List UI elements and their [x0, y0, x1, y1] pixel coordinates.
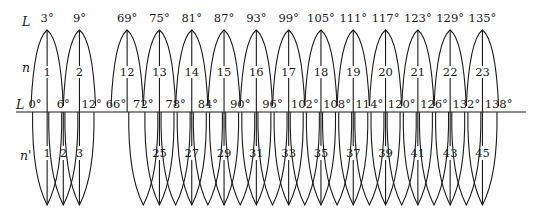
- three-degree-zone-number: 39: [378, 146, 393, 160]
- six-degree-zone-number: 14: [184, 65, 199, 79]
- zone-center-longitude-label: 69°: [117, 11, 137, 25]
- row-label-n: n: [22, 60, 30, 75]
- zone-center-longitude-label: 3°: [41, 11, 54, 25]
- zone-center-longitude-label: 111°: [339, 11, 367, 25]
- gauss-kruger-zone-diagram: LnLn'3°19°269°1275°1381°1487°1593°1699°1…: [0, 0, 540, 213]
- axis-longitude-tick-label: 72°: [133, 97, 153, 111]
- zone-center-longitude-label: 81°: [182, 11, 202, 25]
- three-degree-zone-number: 1: [43, 146, 50, 160]
- three-degree-zone-number: 25: [152, 146, 167, 160]
- axis-longitude-tick-label: 108°: [323, 97, 351, 111]
- zone-center-longitude-label: 117°: [372, 11, 400, 25]
- zone-center-longitude-label: 87°: [214, 11, 234, 25]
- three-degree-zone-number: 35: [314, 146, 329, 160]
- six-degree-zone-number: 18: [314, 65, 329, 79]
- axis-longitude-tick-label: 66°: [106, 97, 126, 111]
- zone-center-longitude-label: 129°: [436, 11, 464, 25]
- zone-center-longitude-label: 123°: [404, 11, 432, 25]
- three-degree-zone-number: 29: [217, 146, 232, 160]
- three-degree-zone-number: 45: [475, 146, 490, 160]
- axis-longitude-tick-label: 6°: [57, 97, 70, 111]
- six-degree-zone-number: 19: [346, 65, 361, 79]
- three-degree-zone-number: 27: [184, 146, 199, 160]
- zone-center-longitude-label: 9°: [73, 11, 86, 25]
- zone-center-longitude-label: 93°: [246, 11, 266, 25]
- six-degree-zone-number: 13: [152, 65, 167, 79]
- zone-center-longitude-label: 105°: [307, 11, 335, 25]
- row-label-n-prime: n': [20, 148, 32, 163]
- six-degree-zone-number: 17: [281, 65, 296, 79]
- axis-longitude-tick-label: 132°: [452, 97, 480, 111]
- six-degree-zone-number: 16: [249, 65, 264, 79]
- three-degree-zone-number: 43: [443, 146, 458, 160]
- three-degree-zone-number: 3: [76, 146, 83, 160]
- axis-longitude-tick-label: 126°: [420, 97, 448, 111]
- row-label-upper-l: L: [21, 14, 30, 29]
- zone-center-longitude-label: 135°: [469, 11, 497, 25]
- axis-longitude-tick-label: 114°: [356, 97, 384, 111]
- three-degree-zone-number: 37: [346, 146, 361, 160]
- six-degree-zone-number: 22: [443, 65, 458, 79]
- zone-center-longitude-label: 99°: [278, 11, 298, 25]
- three-degree-zone-number: 31: [249, 146, 264, 160]
- zone-center-longitude-label: 75°: [149, 11, 169, 25]
- axis-longitude-tick-label: 102°: [291, 97, 319, 111]
- three-degree-zone-number: 41: [411, 146, 426, 160]
- axis-longitude-tick-label: 78°: [165, 97, 185, 111]
- axis-longitude-tick-label: 138°: [485, 97, 513, 111]
- three-degree-zone-number: 2: [60, 146, 67, 160]
- axis-longitude-tick-label: 90°: [230, 97, 250, 111]
- six-degree-zone-number: 1: [43, 65, 50, 79]
- six-degree-zone-number: 15: [217, 65, 232, 79]
- six-degree-zone-number: 2: [76, 65, 83, 79]
- row-label-axis-l: L: [15, 97, 24, 112]
- axis-longitude-tick-label: 12°: [81, 97, 101, 111]
- six-degree-zone-number: 20: [378, 65, 393, 79]
- six-degree-zone-number: 21: [411, 65, 426, 79]
- three-degree-zone-number: 33: [281, 146, 296, 160]
- axis-longitude-tick-label: 0°: [28, 97, 41, 111]
- axis-longitude-tick-label: 120°: [388, 97, 416, 111]
- axis-longitude-tick-label: 96°: [262, 97, 282, 111]
- axis-longitude-tick-label: 84°: [198, 97, 218, 111]
- six-degree-zone-number: 12: [120, 65, 135, 79]
- six-degree-zone-number: 23: [475, 65, 490, 79]
